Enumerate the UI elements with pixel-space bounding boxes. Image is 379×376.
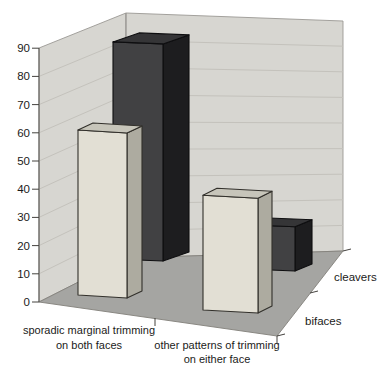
value-tick-label: 60 [17, 127, 30, 139]
bar-bifaces-1-side [258, 191, 272, 313]
value-tick-label: 0 [24, 296, 30, 308]
series-label: bifaces [305, 315, 342, 327]
bar-bifaces-1-front [203, 195, 258, 313]
bar-cleavers-1-side [295, 220, 312, 271]
figure: 0102030405060708090sporadic marginal tri… [0, 0, 379, 376]
value-tick-label: 80 [17, 70, 30, 82]
category-label: on either face [184, 353, 251, 365]
series-label: cleavers [334, 271, 377, 283]
value-tick-label: 40 [17, 183, 30, 195]
value-tick-label: 70 [17, 99, 30, 111]
3d-column-chart: 0102030405060708090sporadic marginal tri… [0, 0, 379, 376]
bar-bifaces-0-front [78, 130, 127, 298]
value-tick-label: 90 [17, 42, 30, 54]
depth-axis-tick [343, 249, 351, 251]
value-tick-label: 20 [17, 240, 30, 252]
category-label: on both faces [56, 339, 123, 351]
value-tick-label: 50 [17, 155, 30, 167]
category-label: other patterns of trimming [154, 339, 279, 351]
bar-cleavers-0-side [163, 35, 189, 261]
category-label: sporadic marginal trimming [23, 324, 155, 336]
value-tick-label: 30 [17, 211, 30, 223]
bar-bifaces-0-side [127, 126, 142, 298]
value-tick-label: 10 [17, 268, 30, 280]
